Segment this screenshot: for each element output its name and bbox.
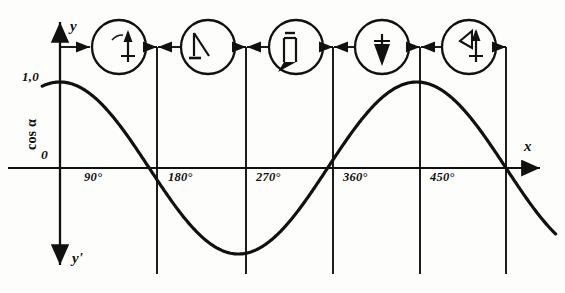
x-axis-label: x bbox=[524, 138, 532, 155]
x-tick-450: 450° bbox=[430, 170, 455, 185]
x-tick-90: 90° bbox=[84, 170, 102, 185]
phasor-270deg bbox=[355, 20, 409, 74]
x-tick-180: 180° bbox=[168, 170, 193, 185]
origin-label: 0 bbox=[41, 147, 48, 163]
phasor-0deg bbox=[92, 20, 146, 74]
cosine-phasor-figure: y y' x 1,0 0 cos α 90° 180° 270° 360° 45… bbox=[0, 0, 565, 293]
x-tick-270: 270° bbox=[256, 170, 281, 185]
amplitude-label: 1,0 bbox=[22, 69, 39, 85]
phasor-90deg bbox=[181, 20, 235, 74]
y-prime-axis-label: y' bbox=[72, 250, 83, 267]
cos-alpha-label: cos α bbox=[24, 119, 40, 150]
x-tick-360: 360° bbox=[343, 170, 368, 185]
figure-canvas bbox=[0, 0, 565, 293]
y-axis-label: y bbox=[70, 18, 77, 35]
phasor-360deg bbox=[442, 20, 496, 74]
phasor-180deg bbox=[269, 20, 323, 74]
